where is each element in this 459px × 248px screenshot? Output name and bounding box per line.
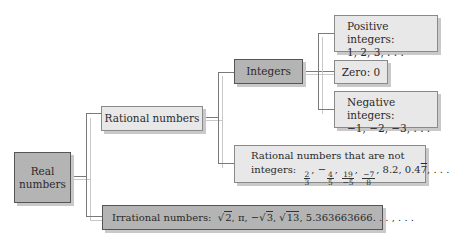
node-negative-integers: Negative integers: −1, −2, −3, . . . <box>334 91 438 128</box>
node-irrational-numbers: Irrational numbers: √2, π, −√3, √13, 5.3… <box>102 205 383 230</box>
real-label-line1: Real <box>31 165 55 178</box>
repeating-decimal: 0.47 <box>405 164 427 175</box>
decimal-8-2: 8.2 <box>383 164 399 175</box>
fraction-neg7-8: −78 <box>362 171 375 186</box>
rni-label-line2: integers: <box>251 164 296 175</box>
irrational-example-sqrt2: √2 <box>218 211 232 224</box>
zero-label: Zero: 0 <box>342 66 380 79</box>
irrational-label: Irrational numbers: <box>112 211 211 224</box>
fraction-neg-4-5: 45 <box>327 171 334 186</box>
node-real-numbers: Real numbers <box>14 152 71 203</box>
negative-label: Negative integers: <box>347 96 437 122</box>
rational-label: Rational numbers <box>105 112 200 125</box>
fraction-2-3: 23 <box>304 171 311 186</box>
irrational-example-neg-sqrt3: −√3 <box>251 211 273 224</box>
negative-examples: −1, −2, −3, . . . <box>347 122 437 135</box>
irrational-example-decimal: 5.363663666. . . , . . . <box>306 211 414 224</box>
irrational-example-sqrt13: √13 <box>279 211 299 224</box>
ellipsis: . . . <box>433 164 449 175</box>
node-rational-not-integers: Rational numbers that are not integers: … <box>234 145 426 183</box>
fraction-19-neg5: 19−5 <box>342 171 354 186</box>
rni-label-line1: Rational numbers that are not <box>251 149 425 162</box>
node-positive-integers: Positive integers: 1, 2, 3, . . . <box>334 15 438 52</box>
node-rational-numbers: Rational numbers <box>101 106 203 131</box>
node-integers: Integers <box>234 59 303 84</box>
node-zero: Zero: 0 <box>334 60 388 84</box>
real-label-line2: numbers <box>19 178 66 191</box>
integers-label: Integers <box>246 65 291 78</box>
irrational-example-pi: π <box>238 211 245 224</box>
positive-examples: 1, 2, 3, . . . <box>347 46 437 59</box>
positive-label: Positive integers: <box>347 20 437 46</box>
rni-examples: integers: 23, −45, 19−5, −78, 8.2, 0.47,… <box>251 163 425 186</box>
